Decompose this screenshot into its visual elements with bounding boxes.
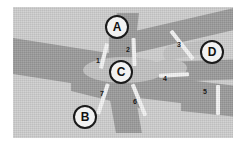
junction-marker-c[interactable]: C (109, 60, 133, 84)
screenshot-root: 1 2 3 4 5 6 7 A B C D · · (0, 0, 246, 145)
junction-marker-a[interactable]: A (105, 15, 129, 39)
junction-label-d: D (208, 45, 217, 59)
marker-label-7: 7 (100, 90, 104, 97)
junction-marker-d[interactable]: D (200, 40, 224, 64)
road-segment-far-southeast (181, 81, 233, 118)
junction-label-a: A (113, 20, 122, 34)
marker-label-5: 5 (203, 88, 207, 95)
watermark-left: · (22, 69, 25, 75)
junction-label-b: B (81, 110, 90, 124)
marker-label-2: 2 (126, 46, 130, 53)
watermark-right: · (198, 20, 201, 26)
marker-label-6: 6 (133, 98, 137, 105)
marker-label-1: 1 (96, 57, 100, 64)
junction-marker-b[interactable]: B (73, 105, 97, 129)
marker-bar-5 (216, 85, 220, 115)
marker-label-4: 4 (163, 75, 167, 82)
marker-label-3: 3 (177, 41, 181, 48)
junction-label-c: C (117, 65, 126, 79)
